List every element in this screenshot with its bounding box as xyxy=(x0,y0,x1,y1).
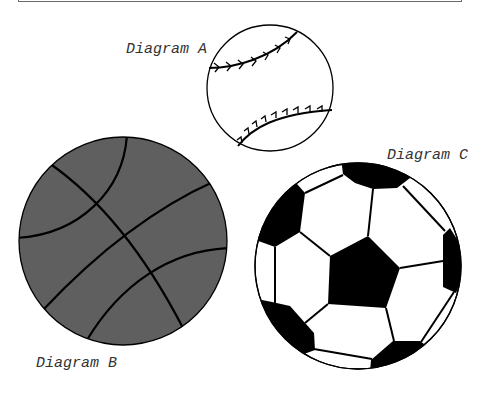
soccer-ball-figure xyxy=(250,150,470,372)
baseball-figure xyxy=(207,25,333,151)
diagrams-canvas xyxy=(0,0,494,396)
basketball-figure xyxy=(15,134,230,345)
